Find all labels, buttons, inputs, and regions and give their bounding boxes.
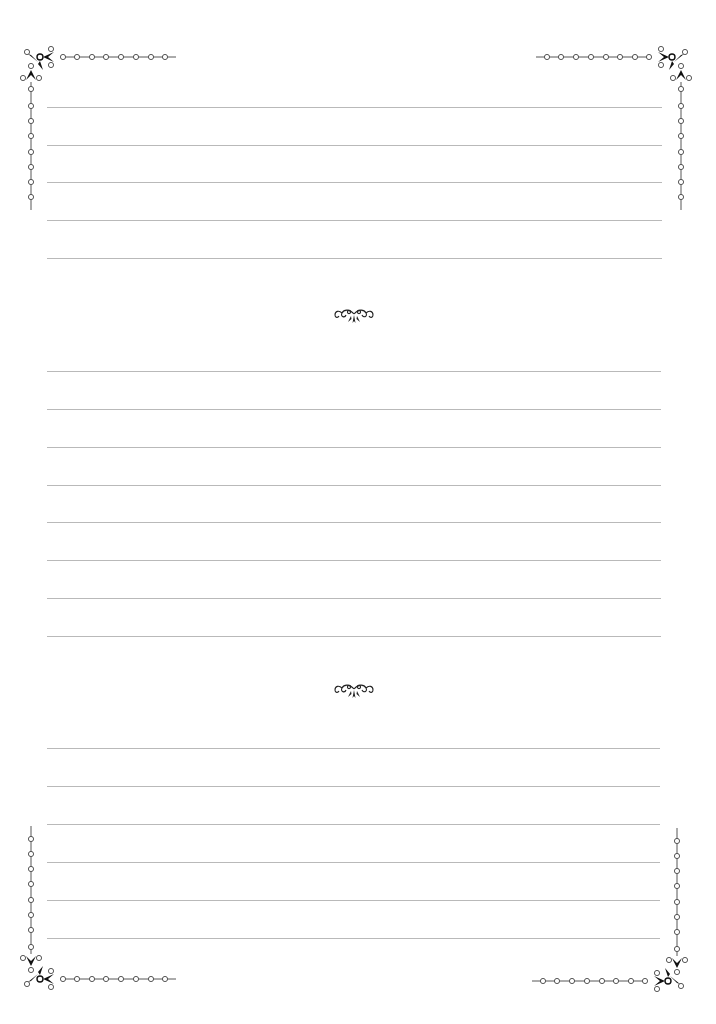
writing-line xyxy=(47,258,662,259)
beaded-corner-icon xyxy=(530,826,690,996)
beaded-corner-icon xyxy=(534,42,694,212)
writing-line xyxy=(47,409,661,410)
writing-line xyxy=(47,371,661,372)
beaded-corner-icon xyxy=(18,42,178,212)
writing-line xyxy=(47,636,661,637)
stationery-page: lined stationery sheet xyxy=(0,0,716,1024)
writing-line xyxy=(47,786,660,787)
scroll-flourish-icon xyxy=(333,306,375,326)
writing-line xyxy=(47,598,661,599)
writing-line xyxy=(47,560,661,561)
writing-line xyxy=(47,447,661,448)
writing-line xyxy=(47,748,660,749)
beaded-corner-icon xyxy=(18,824,178,994)
writing-line xyxy=(47,220,662,221)
scroll-flourish-icon xyxy=(333,681,375,701)
writing-line xyxy=(47,485,661,486)
writing-line xyxy=(47,522,661,523)
